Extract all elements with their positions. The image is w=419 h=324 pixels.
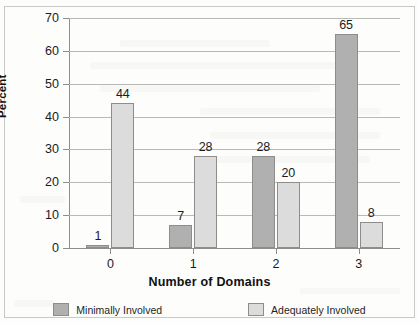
legend-swatch-icon (248, 303, 264, 316)
bar-value-label: 7 (163, 210, 198, 223)
bar-adequately-involved-3 (360, 222, 383, 248)
chart-legend: Minimally Involved Adequately Involved (0, 303, 419, 316)
bar-minimally-involved-1 (169, 225, 192, 248)
bar-value-label: 20 (271, 167, 306, 180)
x-axis-tick-label: 0 (90, 258, 130, 271)
x-axis-tick (276, 249, 277, 254)
figure-container: Percent 1447282820658 010203040506070012… (0, 0, 419, 324)
y-axis-tick (63, 51, 69, 52)
legend-label: Minimally Involved (76, 304, 162, 316)
bar-value-label: 65 (329, 19, 364, 32)
x-axis-tick (193, 249, 194, 254)
y-axis-tick (63, 182, 69, 183)
x-axis-tick (110, 249, 111, 254)
y-axis-tick-label: 60 (19, 45, 59, 58)
y-axis-tick-label: 20 (19, 176, 59, 189)
x-axis-tick-label: 3 (339, 258, 379, 271)
legend-entry-adequately-involved[interactable]: Adequately Involved (248, 303, 366, 316)
x-axis-tick-label: 2 (256, 258, 296, 271)
y-axis-tick-label: 50 (19, 78, 59, 91)
gridline (69, 248, 400, 249)
y-axis-tick (63, 248, 69, 249)
bar-value-label: 28 (246, 141, 281, 154)
x-axis-tick (359, 249, 360, 254)
bar-adequately-involved-1 (194, 156, 217, 248)
bar-minimally-involved-0 (86, 245, 109, 248)
bar-value-label: 8 (354, 207, 389, 220)
y-axis-title: Percent (0, 74, 8, 118)
y-axis-tick-label: 0 (19, 242, 59, 255)
bar-value-label: 44 (105, 88, 140, 101)
y-axis-tick (63, 149, 69, 150)
bar-value-label: 1 (80, 230, 115, 243)
y-axis-tick (63, 18, 69, 19)
y-axis-tick-label: 70 (19, 12, 59, 25)
y-axis-tick-label: 10 (19, 209, 59, 222)
y-axis-tick (63, 215, 69, 216)
y-axis-tick (63, 84, 69, 85)
legend-label: Adequately Involved (271, 304, 366, 316)
legend-swatch-icon (53, 303, 69, 316)
y-axis-tick-label: 40 (19, 111, 59, 124)
bar-value-label: 28 (188, 141, 223, 154)
legend-entry-minimally-involved[interactable]: Minimally Involved (53, 303, 162, 316)
y-axis-tick (63, 117, 69, 118)
plot-area: 1447282820658 (69, 18, 400, 248)
bar-adequately-involved-0 (111, 103, 134, 248)
x-axis-title: Number of Domains (0, 275, 419, 289)
bar-adequately-involved-2 (277, 182, 300, 248)
y-axis-tick-label: 30 (19, 143, 59, 156)
x-axis-tick-label: 1 (173, 258, 213, 271)
